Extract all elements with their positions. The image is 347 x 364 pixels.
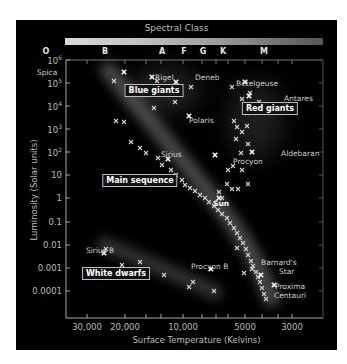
region-label-blue-giants: Blue giants: [125, 84, 184, 97]
star-label-barnard-s: Barnard's: [261, 258, 297, 267]
star-marker: [169, 168, 173, 172]
star-marker: [230, 187, 234, 191]
star-marker: [180, 178, 184, 182]
star-label-proxima: Proxima: [275, 282, 305, 291]
star-marker: [226, 168, 230, 172]
star-label-spica: Spica: [37, 68, 57, 77]
star-marker: [242, 271, 246, 275]
hr-diagram-panel: Spectral Class OBAFGKM Luminosity (Solar…: [16, 20, 337, 350]
star-marker: [225, 182, 229, 186]
named-star-marker: [122, 70, 126, 74]
star-label-sirius-b: Sirius B: [86, 246, 114, 255]
star-label-sirius: Sirius: [161, 150, 182, 159]
star-label-polaris: Polaris: [189, 116, 214, 125]
star-marker: [160, 163, 164, 167]
region-label-red-giants: Red giants: [242, 102, 298, 115]
region-label-white-dwarfs: White dwarfs: [82, 267, 150, 280]
star-marker: [122, 120, 126, 124]
star-marker: [188, 186, 192, 190]
star-label-procyon: Procyon: [233, 157, 263, 166]
star-marker: [114, 119, 118, 123]
star-marker: [236, 187, 240, 191]
star-marker: [183, 183, 187, 187]
star-label-star: Star: [279, 267, 294, 276]
star-label-betelgeuse: Betelgeuse: [236, 79, 278, 88]
star-label-aldebaran: Aldebaran: [281, 149, 319, 158]
star-label-sun: Sun: [213, 199, 229, 208]
named-star-marker: [213, 153, 217, 157]
star-marker: [156, 156, 160, 160]
star-marker: [230, 85, 234, 89]
star-marker: [235, 246, 239, 250]
star-marker: [144, 151, 148, 155]
star-label-deneb: Deneb: [195, 73, 220, 82]
star-marker: [246, 182, 250, 186]
star-marker: [129, 140, 133, 144]
star-label-procyon-b: Procyon B: [191, 262, 228, 271]
star-label-rigel: Rigel: [155, 73, 174, 82]
star-marker: [193, 189, 197, 193]
star-marker: [138, 146, 142, 150]
star-marker: [240, 168, 244, 172]
star-label-centauri: Centauri: [274, 291, 306, 300]
region-label-main-sequence: Main sequence: [102, 174, 177, 187]
